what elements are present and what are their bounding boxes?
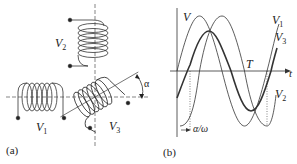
curve-v1-sub: 1 [279,20,283,29]
label-period: T [246,58,253,70]
label-v1: V1 [36,121,47,136]
label-curve-v2: V2 [275,88,286,103]
coil-v2 [68,18,108,68]
label-curve-v3: V3 [275,31,286,46]
coil-v3 [53,60,153,144]
angle-alpha-arc [135,74,144,99]
curve-v3-sub: 3 [282,37,286,46]
label-v1-sub: 1 [43,127,47,136]
label-t-axis: t [289,68,292,79]
label-phase: α/ω [193,124,208,134]
label-curve-v1: V1 [272,14,283,29]
panel-b-label: (b) [163,147,176,158]
label-v2-sub: 2 [62,43,66,52]
label-v2: V2 [55,37,66,52]
label-alpha: α [144,79,149,89]
curve-v2-sub: 2 [282,94,286,103]
label-v3: V3 [109,120,120,135]
coil-v1 [16,83,66,120]
label-v3-sub: 3 [116,126,120,135]
panel-a-diagram [6,4,154,146]
label-v-axis: V [183,11,190,23]
panel-a-label: (a) [6,145,18,156]
